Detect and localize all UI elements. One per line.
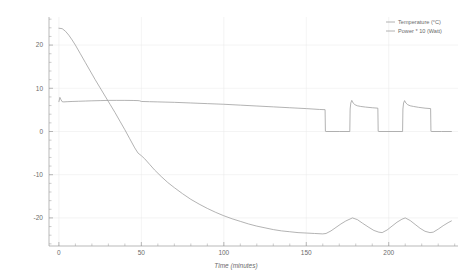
legend-label: Power * 10 (Watt) <box>398 28 442 34</box>
legend-label: Temperature (°C) <box>398 19 441 25</box>
tick-labels: 05010015020020100-10-20 <box>34 41 395 256</box>
x-tick-label: 0 <box>57 249 61 256</box>
x-tick-label: 100 <box>218 249 229 256</box>
x-tick-label: 50 <box>138 249 146 256</box>
y-tick-label: 10 <box>36 85 44 92</box>
x-axis-title: Time (minutes) <box>214 262 257 270</box>
legend: Temperature (°C)Power * 10 (Watt) <box>386 19 442 34</box>
y-tick-label: 20 <box>36 41 44 48</box>
line-chart: 05010015020020100-10-20 Temperature (°C)… <box>0 0 473 274</box>
series-line-power <box>59 97 452 131</box>
y-tick-label: -10 <box>34 171 44 178</box>
y-tick-label: 0 <box>39 128 43 135</box>
axis-ticks <box>49 19 455 246</box>
chart-container: 05010015020020100-10-20 Temperature (°C)… <box>0 0 473 274</box>
data-series <box>59 28 452 234</box>
y-tick-label: -20 <box>34 214 44 221</box>
series-line-temperature <box>59 28 452 234</box>
x-tick-label: 150 <box>301 249 312 256</box>
x-tick-label: 200 <box>383 249 394 256</box>
